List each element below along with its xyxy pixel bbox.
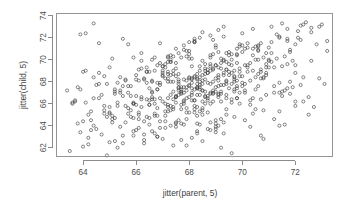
y-tick-label: 70 [39, 55, 48, 65]
x-tick-label: 72 [291, 168, 301, 177]
y-tick-label: 68 [39, 77, 48, 87]
scatter-plot-figure: 62646668707274 6466687072 jitter(parent,… [0, 0, 346, 208]
x-axis-title: jitter(parent, 5) [162, 188, 218, 198]
x-tick-label: 64 [78, 168, 88, 177]
y-tick-label: 66 [39, 99, 48, 109]
y-tick-label: 74 [39, 11, 48, 21]
y-tick-label: 62 [39, 143, 48, 153]
y-tick-label: 64 [39, 121, 48, 131]
y-axis-title: jitter(child, 5) [18, 61, 28, 110]
x-tick-label: 66 [132, 168, 142, 177]
x-tick-label: 70 [238, 168, 248, 177]
x-tick-label: 68 [185, 168, 195, 177]
y-tick-label: 72 [39, 33, 48, 43]
plot-canvas: 62646668707274 6466687072 jitter(parent,… [0, 0, 346, 208]
